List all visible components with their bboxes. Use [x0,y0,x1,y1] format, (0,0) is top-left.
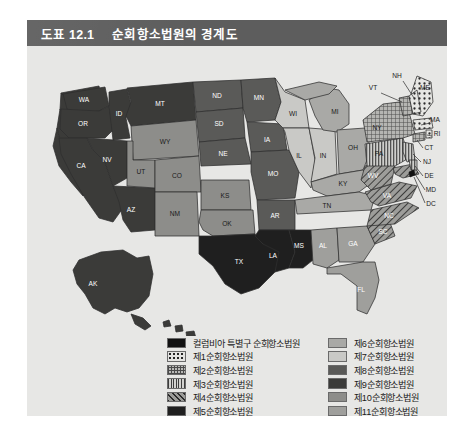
legend-label: 제1순회항소법원 [193,349,253,363]
svg-text:NH: NH [392,72,402,79]
svg-text:MI: MI [331,108,338,115]
figure-number: 도표 12.1 [41,24,94,43]
svg-text:CA: CA [76,162,86,169]
legend-label: 제5순회항소법원 [193,404,253,418]
legend-label: 제10순회항소법원 [354,390,419,404]
state-CT [413,132,425,142]
svg-text:WA: WA [79,96,90,103]
legend-label: 제4순회항소법원 [193,390,253,404]
legend-column-right: 제6순회항소법원 제7순회항소법원 제8순회항소법원 제9순회항소법원 제10순… [328,336,419,418]
legend-label: 컬럼비아 특별구 순회항소법원 [193,336,300,350]
svg-text:NJ: NJ [423,158,431,165]
svg-text:ME: ME [420,84,430,91]
legend-swatch-circuit-3 [167,378,186,389]
svg-text:CT: CT [425,144,434,151]
legend-swatch-circuit-1 [167,351,186,362]
legend-swatch-circuit-11 [328,406,347,417]
legend-swatch-circuit-5 [167,406,186,417]
svg-text:TX: TX [235,258,244,265]
svg-text:MT: MT [155,100,165,107]
svg-text:MS: MS [294,242,304,249]
legend-label: 제2순회항소법원 [193,363,253,377]
svg-text:DE: DE [424,172,434,179]
legend-label: 제8순회항소법원 [354,363,414,377]
svg-text:WY: WY [160,138,171,145]
legend-label: 제11순회항소법원 [354,404,418,418]
svg-text:MD: MD [426,186,436,193]
svg-text:AK: AK [89,280,98,287]
svg-text:MO: MO [268,170,279,177]
legend-item: 제11순회항소법원 [328,404,419,418]
svg-text:OH: OH [348,144,358,151]
svg-text:SC: SC [378,228,387,235]
legend-item: 제7순회항소법원 [328,350,419,364]
legend-item: 제8순회항소법원 [328,363,419,377]
legend-item: 제1순회항소법원 [167,350,300,364]
figure-header: 도표 12.1 순회항소법원의 경계도 [27,20,447,46]
svg-text:GA: GA [348,240,358,247]
svg-text:LA: LA [269,252,278,259]
svg-text:KY: KY [339,180,348,187]
svg-text:PA: PA [375,150,384,157]
svg-text:VA: VA [383,192,392,199]
svg-text:KS: KS [221,192,230,199]
legend-item: 제3순회항소법원 [167,377,300,391]
svg-text:CO: CO [172,172,182,179]
svg-text:IA: IA [264,136,271,143]
svg-text:SD: SD [214,120,223,127]
svg-text:WI: WI [289,110,297,117]
svg-text:NY: NY [372,124,382,131]
svg-text:DC: DC [426,200,436,207]
svg-text:TN: TN [323,202,332,209]
legend-column-left: 컬럼비아 특별구 순회항소법원 제1순회항소법원 제2순회항소법원 제3순회항소… [167,336,300,418]
figure-panel: 도표 12.1 순회항소법원의 경계도 [27,20,447,416]
legend-swatch-circuit-10 [328,392,347,403]
svg-text:IN: IN [320,152,327,159]
legend-label: 제6순회항소법원 [354,336,414,350]
legend-label: 제3순회항소법원 [193,377,253,391]
legend-swatch-circuit-6 [328,338,347,349]
svg-text:FL: FL [357,286,365,293]
legend-label: 제7순회항소법원 [354,349,414,363]
svg-text:OK: OK [222,220,232,227]
svg-text:NM: NM [170,210,180,217]
svg-text:AL: AL [319,242,327,249]
svg-text:NE: NE [218,150,228,157]
us-circuit-map: WA OR ID MT CA NV AZ WY UT CO NM KS OK N… [27,46,447,336]
map-legend: 컬럼비아 특별구 순회항소법원 제1순회항소법원 제2순회항소법원 제3순회항소… [27,336,447,416]
state-RI [426,130,432,138]
legend-swatch-circuit-2 [167,365,186,376]
legend-label: 제9순회항소법원 [354,377,414,391]
svg-text:NV: NV [102,156,112,163]
legend-swatch-circuit-9 [328,378,347,389]
svg-text:OR: OR [78,120,88,127]
svg-text:MN: MN [254,94,264,101]
legend-item: 제2순회항소법원 [167,363,300,377]
legend-swatch-circuit-7 [328,351,347,362]
svg-text:ND: ND [212,92,222,99]
legend-item: 제6순회항소법원 [328,336,419,350]
legend-item: 제5순회항소법원 [167,404,300,418]
legend-swatch-circuit-8 [328,365,347,376]
svg-text:MA: MA [430,116,440,123]
svg-text:UT: UT [137,168,146,175]
legend-item: 컬럼비아 특별구 순회항소법원 [167,336,300,350]
svg-text:NC: NC [384,212,394,219]
svg-text:RI: RI [434,130,441,137]
legend-swatch-dc-circuit [167,338,186,349]
figure-title: 순회항소법원의 경계도 [112,24,238,43]
svg-text:AR: AR [270,212,279,219]
legend-item: 제10순회항소법원 [328,390,419,404]
svg-text:ID: ID [116,110,123,117]
svg-text:VT: VT [369,84,377,91]
svg-text:WV: WV [368,172,379,179]
legend-swatch-circuit-4 [167,392,186,403]
svg-text:AZ: AZ [127,206,135,213]
legend-item: 제4순회항소법원 [167,390,300,404]
svg-text:IL: IL [296,152,302,159]
legend-item: 제9순회항소법원 [328,377,419,391]
